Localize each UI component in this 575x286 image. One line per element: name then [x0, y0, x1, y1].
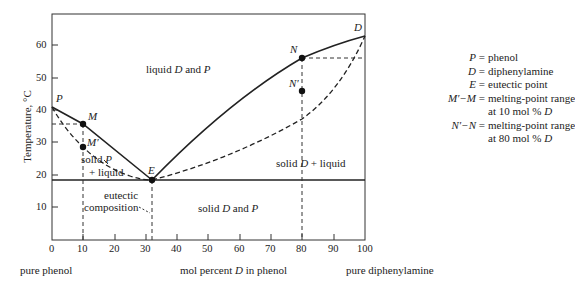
- y-tick-60: 60: [36, 40, 47, 51]
- point-E: [149, 177, 155, 183]
- y-ticks: [52, 45, 58, 207]
- x-ticks: [83, 234, 334, 240]
- region-solid-d-liquid-label: solid D + liquid: [276, 158, 345, 169]
- label-P: P: [56, 93, 63, 104]
- label-N-prime: N′: [289, 78, 299, 89]
- eutectic-label-2: composition: [84, 202, 138, 213]
- pure-phenol-label: pure phenol: [20, 265, 72, 276]
- y-tick-30: 30: [36, 137, 47, 148]
- x-tick-30: 30: [140, 244, 151, 255]
- label-N: N: [290, 44, 297, 55]
- region-solid-d-and-p-label: solid D and P: [198, 203, 258, 214]
- y-axis-label: Temperature, °C: [22, 82, 33, 172]
- x-tick-90: 90: [328, 244, 339, 255]
- x-tick-10: 10: [77, 244, 88, 255]
- legend-row-M-2: at 10 mol % D: [400, 105, 575, 119]
- x-tick-60: 60: [234, 244, 245, 255]
- region-solid-p-liquid-label-1: solid P: [81, 154, 112, 165]
- region-liquid-label: liquid D and P: [146, 64, 211, 75]
- point-N: [299, 55, 305, 61]
- y-tick-50: 50: [36, 73, 47, 84]
- legend-row-N-2: at 80 mol % D: [400, 132, 575, 146]
- label-M-prime: M′: [87, 137, 99, 148]
- x-axis-label: mol percent D in phenol: [180, 265, 287, 276]
- x-tick-70: 70: [265, 244, 276, 255]
- legend-row-P: P =phenol: [400, 51, 575, 65]
- point-N-prime: [299, 88, 305, 94]
- label-M: M: [88, 111, 97, 122]
- x-tick-40: 40: [171, 244, 182, 255]
- eutectic-label-1: eutectic: [104, 190, 138, 201]
- legend-row-M: M′−M =melting-point range: [400, 92, 575, 106]
- region-solid-p-liquid-label-2: + liquid: [89, 167, 124, 178]
- eutectic-arrow: [139, 207, 150, 213]
- legend-row-D: D =diphenylamine: [400, 65, 575, 79]
- x-tick-100: 100: [357, 244, 373, 255]
- x-tick-0: 0: [49, 244, 54, 255]
- x-tick-20: 20: [109, 244, 120, 255]
- y-tick-10: 10: [36, 202, 47, 213]
- pure-diphenylamine-label: pure diphenylamine: [346, 265, 434, 276]
- y-tick-40: 40: [36, 105, 47, 116]
- y-tick-20: 20: [36, 170, 47, 181]
- legend-row-E: E =eutectic point: [400, 78, 575, 92]
- legend: P =phenol D =diphenylamine E =eutectic p…: [400, 51, 575, 146]
- point-M: [80, 121, 86, 127]
- x-tick-50: 50: [202, 244, 213, 255]
- label-D: D: [354, 22, 362, 33]
- point-M-prime: [80, 144, 86, 150]
- x-tick-80: 80: [296, 244, 307, 255]
- legend-row-N: N′−N =melting-point range: [400, 119, 575, 133]
- label-E: E: [148, 165, 155, 176]
